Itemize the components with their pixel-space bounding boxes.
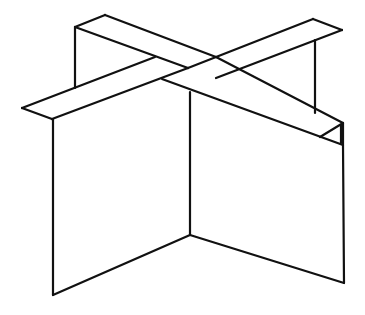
beam-b-upper-edge-back [188,19,313,68]
beam-b-left-tip-lower [22,108,52,119]
cross-structure-drawing [0,0,365,315]
beam-b-top-end [313,19,342,30]
beam-a-lower-edge-back [75,27,188,68]
base-right [190,235,344,283]
beam-b-upper-edge-front [22,57,155,108]
beam-a-upper-edge-front [216,57,343,123]
beam-a-end-inner [320,123,343,137]
front-right-post [343,145,344,283]
base-left [53,235,190,295]
beam-b-lower-edge-front [52,68,188,119]
beam-a-top-edge-back [75,15,105,27]
beam-b-lower-edge-back [216,30,342,78]
beam-a-upper-edge [105,15,216,57]
diagram-canvas: Line drawing of a 3D cross-shaped figure… [0,0,365,315]
